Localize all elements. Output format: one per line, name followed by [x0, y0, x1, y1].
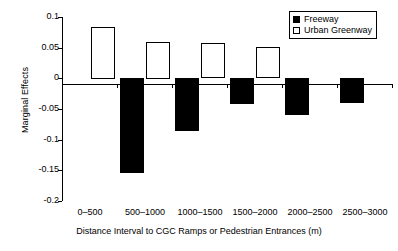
x-category-label: 2500–3000 [342, 207, 387, 217]
x-tick-mark [62, 84, 63, 88]
x-category-label: 0–500 [77, 207, 102, 217]
bar-freeway-3 [230, 78, 254, 104]
y-tick-label: 0.1 [46, 11, 59, 21]
plot-area: 0.10.050-0.05-0.1-0.15-0.2 0–500500–1000… [62, 17, 392, 201]
bar-chart-figure: Marginal Effects 0.10.050-0.05-0.1-0.15-… [0, 0, 398, 251]
x-tick-mark [172, 84, 173, 88]
legend-item-urban-greenway: Urban Greenway [293, 25, 372, 36]
x-category-label: 1500–2000 [232, 207, 277, 217]
x-tick-mark [337, 84, 338, 88]
x-tick-mark [392, 84, 393, 88]
bar-freeway-4 [285, 78, 309, 115]
y-tick-label: -0.05 [38, 103, 59, 113]
x-category-label: 1000–1500 [177, 207, 222, 217]
x-tick-mark [117, 84, 118, 88]
legend-item-freeway: Freeway [293, 14, 372, 25]
x-axis-title: Distance Interval to CGC Ramps or Pedest… [0, 226, 398, 236]
y-axis-line [62, 17, 63, 201]
bar-freeway-1 [120, 78, 144, 173]
y-axis-title: Marginal Effects [20, 30, 30, 170]
y-tick-label: -0.15 [38, 164, 59, 174]
y-tick-label: 0.05 [41, 42, 59, 52]
y-tick-label: -0.2 [43, 195, 59, 205]
y-tick-label: -0.1 [43, 134, 59, 144]
bar-freeway-2 [175, 78, 199, 131]
bar-urban-greenway-2 [201, 43, 225, 78]
x-category-label: 500–1000 [125, 207, 165, 217]
bar-urban-greenway-3 [256, 47, 280, 78]
filled-square-icon [293, 16, 300, 23]
y-tick-label: 0 [54, 72, 59, 82]
x-tick-mark [282, 84, 283, 88]
legend: Freeway Urban Greenway [289, 11, 377, 39]
x-category-label: 2000–2500 [287, 207, 332, 217]
bar-urban-greenway-1 [146, 42, 170, 79]
x-tick-mark [227, 84, 228, 88]
legend-label-urban-greenway: Urban Greenway [304, 25, 372, 36]
hollow-square-icon [293, 27, 300, 34]
bar-freeway-5 [340, 78, 364, 103]
legend-label-freeway: Freeway [304, 14, 339, 25]
bar-urban-greenway-0 [91, 27, 115, 79]
